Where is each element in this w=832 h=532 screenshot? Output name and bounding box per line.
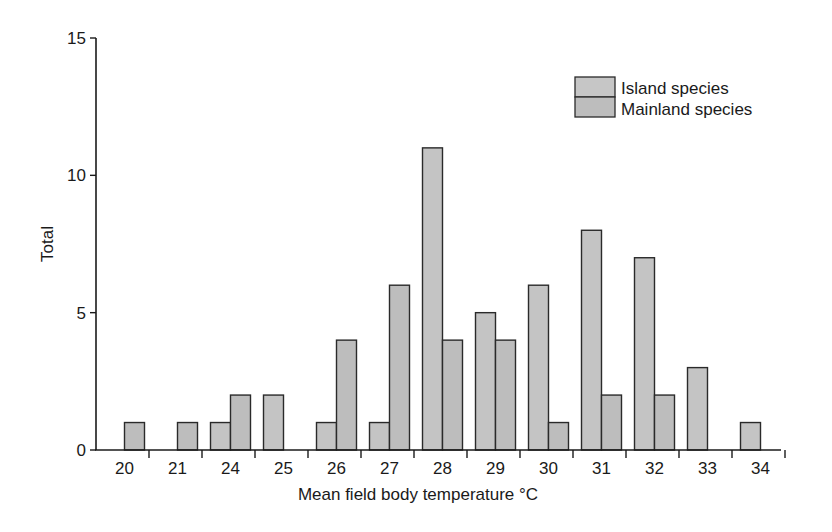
x-tick-label: 34 (751, 459, 770, 478)
legend-swatch-mainland (575, 97, 615, 117)
bar-island-31 (582, 230, 602, 450)
bar-island-30 (529, 285, 549, 450)
y-ticks: 051015 (67, 29, 96, 460)
bar-island-24 (211, 423, 231, 450)
bar-island-27 (370, 423, 390, 450)
legend-label-mainland: Mainland species (621, 100, 752, 119)
x-ticks: 20212425262728293031323334 (115, 450, 785, 478)
bars-layer (125, 148, 761, 450)
x-tick-label: 27 (380, 459, 399, 478)
y-axis-title: Total (38, 226, 57, 262)
bar-chart: 051015 20212425262728293031323334 Total … (0, 0, 832, 532)
bar-island-32 (635, 258, 655, 450)
bar-mainland-29 (496, 340, 516, 450)
legend: Island species Mainland species (575, 77, 752, 119)
x-tick-label: 29 (486, 459, 505, 478)
bar-island-26 (317, 423, 337, 450)
bar-mainland-32 (655, 395, 675, 450)
x-axis-title: Mean field body temperature °C (298, 485, 538, 504)
bar-mainland-27 (390, 285, 410, 450)
x-tick-label: 21 (168, 459, 187, 478)
bar-mainland-26 (337, 340, 357, 450)
x-tick-label: 25 (274, 459, 293, 478)
bar-mainland-21 (178, 423, 198, 450)
bar-mainland-24 (231, 395, 251, 450)
legend-swatch-island (575, 77, 615, 97)
y-tick-label: 15 (67, 29, 86, 48)
x-tick-label: 33 (698, 459, 717, 478)
x-tick-label: 32 (645, 459, 664, 478)
bar-island-33 (688, 368, 708, 450)
x-tick-label: 24 (221, 459, 240, 478)
x-tick-label: 20 (115, 459, 134, 478)
bar-mainland-20 (125, 423, 145, 450)
x-tick-label: 28 (433, 459, 452, 478)
y-tick-label: 0 (77, 441, 86, 460)
bar-island-25 (264, 395, 284, 450)
legend-label-island: Island species (621, 79, 729, 98)
bar-mainland-28 (443, 340, 463, 450)
y-tick-label: 5 (77, 304, 86, 323)
bar-mainland-31 (602, 395, 622, 450)
bar-island-29 (476, 313, 496, 450)
x-tick-label: 31 (592, 459, 611, 478)
bar-island-34 (741, 423, 761, 450)
bar-mainland-30 (549, 423, 569, 450)
bar-island-28 (423, 148, 443, 450)
y-tick-label: 10 (67, 166, 86, 185)
x-tick-label: 30 (539, 459, 558, 478)
x-tick-label: 26 (327, 459, 346, 478)
